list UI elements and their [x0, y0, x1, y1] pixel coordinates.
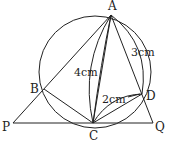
- label-D: D: [146, 89, 156, 103]
- label-B: B: [30, 82, 39, 96]
- label-Q: Q: [155, 120, 165, 134]
- segment-BC: [44, 89, 93, 123]
- label-A: A: [107, 0, 117, 13]
- label-P: P: [2, 120, 10, 134]
- measure-CD: 2cm: [102, 93, 126, 106]
- label-C: C: [89, 129, 98, 143]
- line-AQ: [111, 15, 153, 123]
- measure-AC: 4cm: [74, 66, 98, 79]
- geometry-diagram: A B C D P Q 4cm 3cm 2cm: [0, 0, 169, 144]
- measure-AD: 3cm: [131, 46, 155, 59]
- diagram-svg: A B C D P Q 4cm 3cm 2cm: [0, 0, 169, 144]
